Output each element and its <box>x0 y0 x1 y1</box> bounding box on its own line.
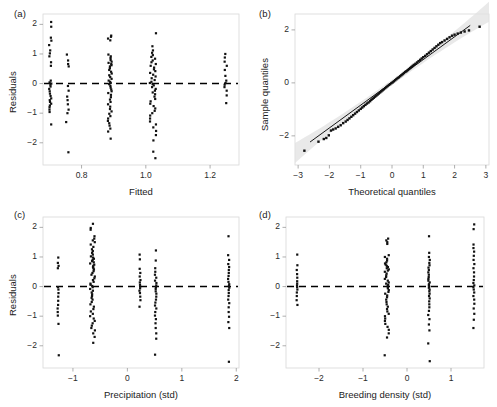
figure-regression-diagnostics: (a) 0.81.01.2210−1−2FittedResiduals (b) … <box>0 0 497 407</box>
x-tick-label: 1.2 <box>190 170 230 180</box>
x-tick-label: 0 <box>107 373 147 383</box>
plot-frame <box>286 217 484 368</box>
y-tick-label: 2 <box>252 221 280 231</box>
y-tick-label: 1 <box>9 48 37 58</box>
y-tick-label: 0 <box>252 281 280 291</box>
y-tick-label: 2 <box>9 221 37 231</box>
x-axis-title: Precipitation (std) <box>23 389 259 400</box>
x-tick-label: −1 <box>343 373 383 383</box>
x-tick-label: 0.8 <box>62 170 102 180</box>
y-tick-label: 2 <box>261 24 289 34</box>
plot-frame <box>43 14 239 165</box>
x-tick-label: 0 <box>387 373 427 383</box>
y-tick-label: 1 <box>9 251 37 261</box>
y-tick-label: 1 <box>252 251 280 261</box>
x-axis-title: Theoretical quantiles <box>275 186 497 197</box>
y-axis-title: Sample quantiles <box>259 58 270 131</box>
panel-d: (d) −2−101210−1−2Breeding density (std) <box>249 203 497 407</box>
y-tick-label: −2 <box>9 137 37 147</box>
y-axis-title: Residuals <box>7 274 18 316</box>
y-axis-title: Residuals <box>7 71 18 113</box>
x-axis-title: Breeding density (std) <box>266 389 497 400</box>
x-axis-title: Fitted <box>23 186 259 197</box>
y-tick-label: −2 <box>261 130 289 140</box>
x-tick-label: −1 <box>53 373 93 383</box>
y-tick-label: −2 <box>252 340 280 350</box>
panel-b: (b) −3−2−1012320−2Theoretical quantilesS… <box>249 0 497 204</box>
x-tick-label: 1.0 <box>126 170 166 180</box>
y-tick-label: −1 <box>252 310 280 320</box>
y-tick-label: −2 <box>9 340 37 350</box>
panel-a: (a) 0.81.01.2210−1−2FittedResiduals <box>0 0 249 204</box>
x-tick-label: 3 <box>466 170 497 180</box>
x-tick-label: 1 <box>162 373 202 383</box>
x-tick-label: 1 <box>431 373 471 383</box>
x-tick-label: −2 <box>299 373 339 383</box>
y-tick-label: 2 <box>9 18 37 28</box>
panel-c: (c) −1012210−1−2Precipitation (std)Resid… <box>0 203 249 407</box>
